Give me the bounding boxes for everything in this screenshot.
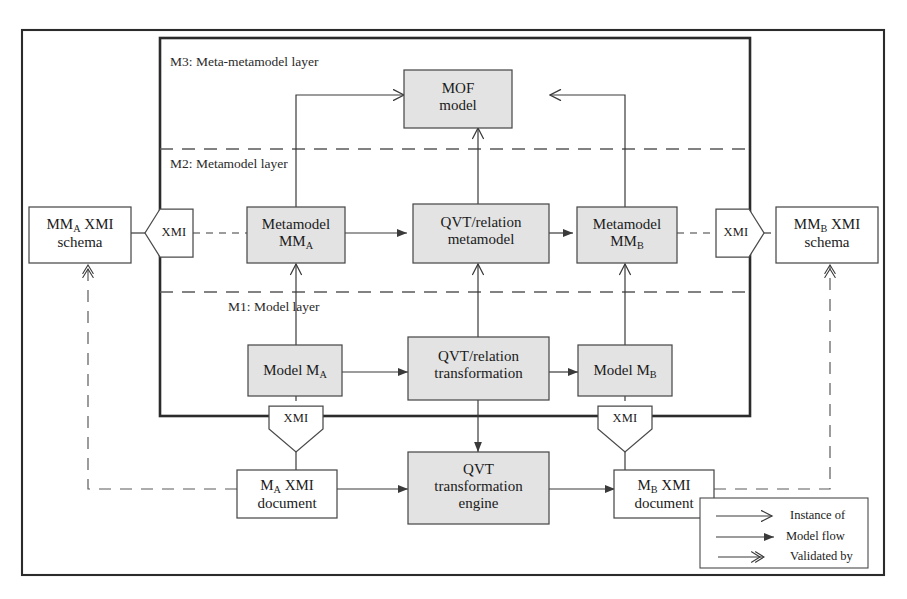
label-mb-xmi-document-line1: MB XMI (614, 477, 714, 495)
label-mma-xmi-schema: MMA XMI schema (29, 216, 131, 251)
label-mmb-xmi-schema-line1: MMB XMI (776, 216, 878, 234)
label-metamodel-mma-line2: MMA (247, 233, 345, 251)
layer-label-m2: M2: Metamodel layer (170, 156, 470, 171)
label-metamodel-mma: Metamodel MMA (247, 216, 345, 251)
label-model-mb: Model MB (578, 362, 672, 380)
layer-label-m3: M3: Meta-metamodel layer (170, 54, 470, 69)
label-model-ma-line1: Model MA (248, 362, 342, 380)
label-qvt-transformation-engine-line1: QVT (408, 461, 549, 478)
label-metamodel-mmb: Metamodel MMB (577, 216, 677, 251)
label-ma-xmi-document: MA XMI document (237, 477, 337, 512)
label-qvt-relation-transformation-line1: QVT/relation (408, 348, 549, 365)
label-qvt-relation-metamodel-line1: QVT/relation (413, 214, 549, 231)
label-mof-model: MOF model (404, 80, 512, 114)
legend-label-model-flow: Model flow (786, 529, 876, 543)
label-xmi-ma: XMI (272, 411, 320, 425)
label-mma-xmi-schema-line1: MMA XMI (29, 216, 131, 234)
label-xmi-mb: XMI (601, 411, 649, 425)
label-model-mb-line1: Model MB (578, 362, 672, 380)
legend-label-validated-by: Validated by (790, 549, 886, 563)
label-xmi-right: XMI (712, 225, 760, 239)
label-mof-model-line2: model (404, 97, 512, 114)
label-qvt-transformation-engine: QVT transformation engine (408, 461, 549, 511)
label-xmi-left: XMI (150, 225, 198, 239)
label-metamodel-mma-line1: Metamodel (247, 216, 345, 233)
label-qvt-relation-metamodel-line2: metamodel (413, 231, 549, 248)
label-qvt-transformation-engine-line2: transformation (408, 478, 549, 495)
label-qvt-transformation-engine-line3: engine (408, 495, 549, 512)
label-qvt-relation-metamodel: QVT/relation metamodel (413, 214, 549, 248)
label-mb-xmi-document: MB XMI document (614, 477, 714, 512)
label-mmb-xmi-schema-line2: schema (776, 234, 878, 251)
label-ma-xmi-document-line2: document (237, 495, 337, 512)
label-mof-model-line1: MOF (404, 80, 512, 97)
legend-label-instance-of: Instance of (790, 508, 880, 522)
label-ma-xmi-document-line1: MA XMI (237, 477, 337, 495)
label-mmb-xmi-schema: MMB XMI schema (776, 216, 878, 251)
label-metamodel-mmb-line1: Metamodel (577, 216, 677, 233)
label-metamodel-mmb-line2: MMB (577, 233, 677, 251)
label-qvt-relation-transformation: QVT/relation transformation (408, 348, 549, 382)
label-mma-xmi-schema-line2: schema (29, 234, 131, 251)
layer-label-m1: M1: Model layer (228, 299, 528, 314)
label-model-ma: Model MA (248, 362, 342, 380)
label-mb-xmi-document-line2: document (614, 495, 714, 512)
diagram-canvas: M3: Meta-metamodel layer M2: Metamodel l… (0, 0, 907, 599)
label-qvt-relation-transformation-line2: transformation (408, 365, 549, 382)
